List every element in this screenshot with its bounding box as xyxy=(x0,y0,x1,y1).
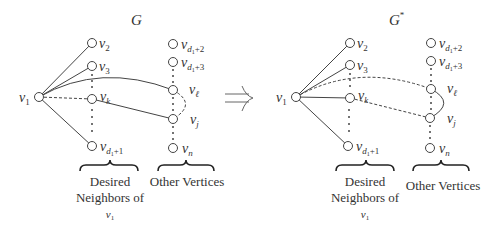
edge-v1-vd1plus1 xyxy=(296,97,348,146)
node-vk xyxy=(88,95,97,104)
label-vj: vj xyxy=(190,112,199,129)
group-label-desired-line3: v1 xyxy=(106,208,115,222)
node-vl xyxy=(169,86,178,95)
label-vd1plus2: vd1+2 xyxy=(439,36,462,54)
node-vd1plus2 xyxy=(427,39,436,48)
graph-transformation-diagram: G xyxy=(0,0,496,229)
label-v3: v3 xyxy=(357,58,368,75)
node-vj xyxy=(169,115,178,124)
node-vn xyxy=(426,144,435,153)
panel-title-g-star: G* xyxy=(389,10,405,28)
node-vn xyxy=(169,144,178,153)
node-vd1plus2 xyxy=(169,40,178,49)
group-label-other-vertices: Other Vertices xyxy=(406,178,480,193)
label-v1: v1 xyxy=(19,90,30,107)
edge-v1-vk-dashed xyxy=(39,97,92,99)
label-vn: vn xyxy=(439,141,450,158)
group-labels-g-star: Desired Neighbors of v1 Other Vertices xyxy=(331,174,480,222)
node-v3 xyxy=(88,62,97,71)
label-vd1plus3: vd1+3 xyxy=(181,55,205,73)
braces-g xyxy=(80,160,214,171)
brace-other-vertices xyxy=(413,160,469,171)
group-label-desired-line3: v1 xyxy=(361,208,370,222)
edges-g-star xyxy=(296,43,444,146)
brace-desired-neighbors xyxy=(336,160,394,171)
node-v3 xyxy=(346,61,355,70)
group-label-desired-line1: Desired xyxy=(90,174,131,189)
node-vl xyxy=(427,85,436,94)
label-v3: v3 xyxy=(99,59,110,76)
node-vk xyxy=(346,94,355,103)
node-v2 xyxy=(88,39,97,48)
node-v1 xyxy=(35,93,44,102)
label-v2: v2 xyxy=(357,36,368,53)
implies-arrow-icon xyxy=(225,86,253,111)
group-label-desired-line2: Neighbors of xyxy=(76,190,145,205)
panel-g: G xyxy=(19,12,224,222)
edge-v1-vd1plus1 xyxy=(39,97,92,146)
label-vk: vk xyxy=(100,89,111,106)
edge-v1-vk xyxy=(296,97,350,98)
label-vl: vℓ xyxy=(447,81,457,98)
label-vd1plus3: vd1+3 xyxy=(439,54,463,72)
node-vd1plus1 xyxy=(344,142,353,151)
label-v1: v1 xyxy=(276,90,287,107)
node-v2 xyxy=(346,39,355,48)
node-vj xyxy=(426,114,435,123)
label-vd1plus1: vd1+1 xyxy=(100,139,123,157)
node-vd1plus3 xyxy=(169,58,178,67)
label-vk: vk xyxy=(358,88,369,105)
group-label-desired-line1: Desired xyxy=(345,174,386,189)
node-vd1plus3 xyxy=(427,57,436,66)
braces-g-star xyxy=(336,160,469,171)
edge-v1-v2 xyxy=(39,43,92,97)
label-vj: vj xyxy=(447,111,456,128)
label-vd1plus1: vd1+1 xyxy=(356,139,379,157)
group-labels-g: Desired Neighbors of v1 Other Vertices xyxy=(76,174,224,222)
brace-desired-neighbors xyxy=(80,160,138,171)
brace-other-vertices xyxy=(158,160,214,171)
node-v1 xyxy=(292,93,301,102)
label-vn: vn xyxy=(182,141,193,158)
node-vd1plus1 xyxy=(88,142,97,151)
label-v2: v2 xyxy=(99,36,110,53)
label-vd1plus2: vd1+2 xyxy=(181,37,204,55)
panel-g-star: G* xyxy=(276,10,480,222)
edges-g xyxy=(39,43,186,146)
label-vl: vℓ xyxy=(189,82,199,99)
group-label-desired-line2: Neighbors of xyxy=(331,190,400,205)
panel-title-g: G xyxy=(131,12,142,28)
group-label-other-vertices: Other Vertices xyxy=(150,174,224,189)
